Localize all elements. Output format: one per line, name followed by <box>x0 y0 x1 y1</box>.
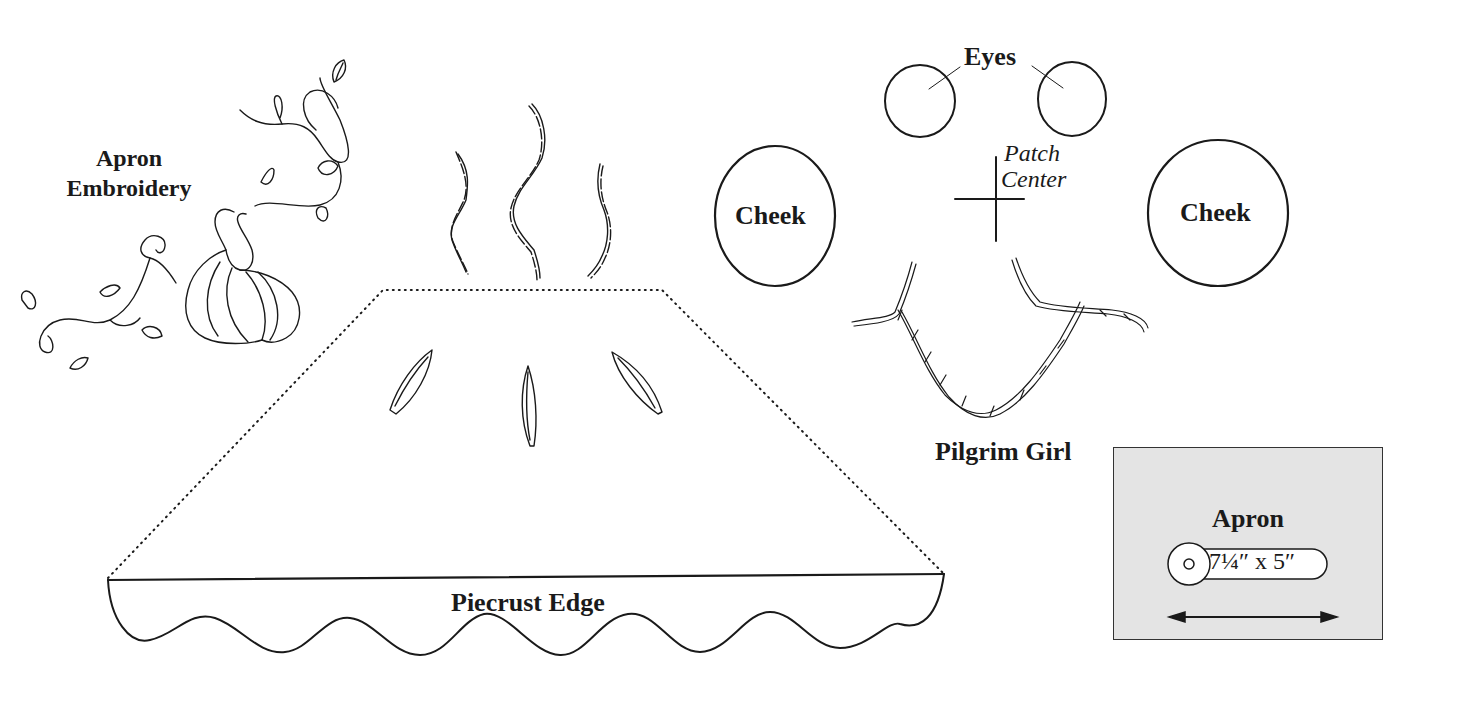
eye-left <box>885 65 955 137</box>
apron-size-label: 7¼″ x 5″ <box>1209 548 1295 575</box>
vine-icon <box>40 78 349 353</box>
cheek-left-label: Cheek <box>735 201 806 231</box>
smile-rope-icon <box>852 258 1148 417</box>
apron-embroidery-label: Apron Embroidery <box>54 143 204 203</box>
apron-embroidery-line1: Apron <box>54 143 204 173</box>
pilgrim-girl-label: Pilgrim Girl <box>935 437 1071 467</box>
apron-embroidery-line2: Embroidery <box>54 173 204 203</box>
eyes-label: Eyes <box>964 42 1016 72</box>
patch-center-label: Patch Center <box>1001 140 1066 192</box>
leaf-icon <box>22 60 346 369</box>
eye-right <box>1038 62 1106 136</box>
cheek-right-label: Cheek <box>1180 198 1251 228</box>
apron-card-graphics <box>1113 447 1383 640</box>
patch-center-line2: Center <box>1001 166 1066 192</box>
pie-slit-icon <box>390 350 662 446</box>
steam-lines-icon <box>451 104 610 280</box>
pumpkin-icon <box>186 209 300 343</box>
piecrust-edge-label: Piecrust Edge <box>451 588 605 618</box>
patch-center-line1: Patch <box>1004 140 1066 166</box>
double-headed-arrow-icon <box>1169 612 1337 622</box>
